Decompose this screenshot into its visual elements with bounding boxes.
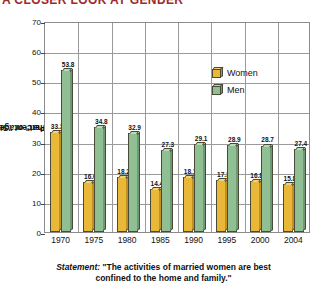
y-axis-tick-label: 70 bbox=[32, 19, 41, 27]
bar-women-2000 bbox=[250, 181, 260, 232]
gridline-vertical bbox=[145, 23, 146, 232]
bar-men-1980 bbox=[128, 133, 138, 232]
legend-item-women: Women bbox=[212, 64, 258, 81]
gridline-vertical bbox=[112, 23, 113, 232]
chart-legend: Women Men bbox=[212, 64, 258, 98]
y-axis-tick-label: 10 bbox=[32, 200, 41, 208]
bar-men-1970 bbox=[61, 70, 71, 232]
y-axis-tick-label: 30 bbox=[32, 140, 41, 148]
y-axis-tick-mark bbox=[41, 83, 45, 84]
cube-icon bbox=[212, 67, 223, 78]
bar-value-label: 28.9 bbox=[222, 136, 246, 143]
bar-men-1990 bbox=[194, 144, 204, 232]
gridline-vertical bbox=[178, 23, 179, 232]
gridline bbox=[45, 83, 309, 84]
gridline-vertical bbox=[245, 23, 246, 232]
y-axis-tick-mark bbox=[41, 174, 45, 175]
bar-women-1980 bbox=[117, 177, 127, 232]
bar-chart: Percentage Agreeing "Somewhat" or "Stron… bbox=[0, 0, 327, 255]
bar-value-label: 27.3 bbox=[156, 141, 180, 148]
gridline-vertical bbox=[278, 23, 279, 232]
y-axis-tick-mark bbox=[41, 113, 45, 114]
y-axis-label: Percentage Agreeing "Somewhat" or "Stron… bbox=[2, 22, 24, 233]
legend-label-women: Women bbox=[227, 68, 258, 78]
y-axis-tick-label: 60 bbox=[32, 49, 41, 57]
bar-women-1990 bbox=[183, 177, 193, 232]
y-axis-tick-mark bbox=[41, 23, 45, 24]
y-axis-tick-mark bbox=[41, 204, 45, 205]
bar-value-label: 27.4 bbox=[289, 140, 313, 147]
caption-label: Statement: bbox=[56, 262, 100, 272]
gridline bbox=[45, 53, 309, 54]
gridline-vertical bbox=[78, 23, 79, 232]
bar-men-1975 bbox=[94, 127, 104, 232]
legend-label-men: Men bbox=[227, 85, 245, 95]
bar-value-label: 28.7 bbox=[256, 136, 280, 143]
bar-men-1985 bbox=[161, 150, 171, 232]
y-axis-tick-label: 40 bbox=[32, 109, 41, 117]
bar-men-2004 bbox=[294, 149, 304, 232]
gridline bbox=[45, 113, 309, 114]
chart-caption: Statement: "The activities of married wo… bbox=[0, 262, 327, 284]
caption-line1: "The activities of married women are bes… bbox=[102, 262, 270, 272]
bar-men-1995 bbox=[227, 145, 237, 232]
legend-item-men: Men bbox=[212, 81, 258, 98]
bar-women-1995 bbox=[216, 180, 226, 232]
bar-women-1970 bbox=[50, 132, 60, 232]
x-axis-tick-label: 2004 bbox=[273, 236, 313, 245]
y-axis-tick-mark bbox=[41, 53, 45, 54]
bar-value-label: 53.8 bbox=[56, 61, 80, 68]
bar-value-label: 34.8 bbox=[89, 118, 113, 125]
y-axis-tick-label: 50 bbox=[32, 79, 41, 87]
gridline-vertical bbox=[211, 23, 212, 232]
y-axis-tick-mark bbox=[41, 144, 45, 145]
bar-women-1975 bbox=[83, 182, 93, 232]
bar-women-2004 bbox=[283, 184, 293, 232]
y-axis-tick-mark bbox=[41, 234, 45, 235]
plot-area: 010203040506070 33.353.816.634.818.232.9… bbox=[44, 22, 310, 233]
bar-value-label: 32.9 bbox=[123, 124, 147, 131]
cube-icon bbox=[212, 84, 223, 95]
y-axis-tick-label: 20 bbox=[32, 170, 41, 178]
bar-women-1985 bbox=[150, 189, 160, 232]
bar-value-label: 29.1 bbox=[189, 135, 213, 142]
caption-line2: confined to the home and family." bbox=[95, 273, 231, 283]
bar-men-2000 bbox=[261, 146, 271, 233]
